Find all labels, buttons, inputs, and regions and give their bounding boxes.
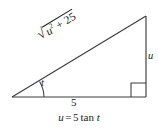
caption-function: tan — [78, 111, 93, 123]
caption-argument: t — [97, 111, 100, 123]
base-label-5: 5 — [71, 97, 77, 108]
triangle-hypotenuse-line — [12, 16, 146, 97]
figure-caption: u=5tan t — [0, 112, 158, 123]
caption-variable: u — [58, 111, 64, 123]
right-angle-marker-icon — [131, 83, 146, 97]
trigonometry-figure: √ u2 + 25 t 5 u u=5tan t — [0, 0, 158, 131]
vertical-leg-label-u: u — [148, 51, 153, 62]
caption-equals: = — [64, 111, 73, 123]
angle-label-t: t — [41, 78, 44, 89]
